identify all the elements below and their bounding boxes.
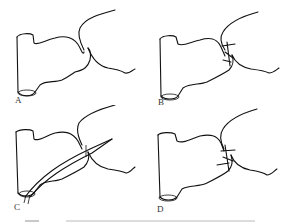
needle-lower-edge <box>30 139 112 197</box>
figure-caption-cutoff <box>25 216 255 223</box>
panel-label-d: D <box>157 204 164 214</box>
panel-label-c: C <box>14 202 20 212</box>
caption-text <box>25 220 255 222</box>
anatomy-drawing-b <box>145 0 291 105</box>
panel-label-a: A <box>15 95 22 105</box>
panel-c: C <box>0 105 145 210</box>
anatomy-drawing-c <box>0 105 145 210</box>
panel-b: B <box>145 0 290 105</box>
panel-d: D <box>145 105 290 210</box>
anatomy-drawing-a <box>0 0 145 105</box>
panel-a: A <box>0 0 145 105</box>
anatomy-drawing-d <box>145 105 291 210</box>
